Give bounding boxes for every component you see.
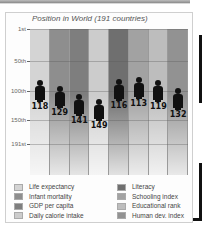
legend-swatch	[14, 184, 23, 191]
legend-swatch	[14, 193, 23, 200]
rank-value: 132	[166, 110, 190, 119]
legend-item: Life expectancy	[14, 182, 74, 191]
legend-item: Infant mortality	[14, 192, 72, 201]
legend-label: Human dev. index	[132, 212, 184, 219]
y-tick-label: 191st	[11, 141, 30, 147]
legend-swatch	[117, 193, 126, 200]
legend-item: Educational rank	[117, 201, 180, 210]
page-edge-frame-lower	[199, 163, 202, 221]
legend-swatch	[117, 212, 126, 219]
legend-swatch	[14, 203, 23, 210]
legend-item: Daily calorie intake	[14, 211, 84, 220]
rank-value: 149	[87, 121, 111, 130]
legend-label: GDP per capita	[29, 202, 73, 209]
gridline	[30, 91, 188, 92]
legend-item: GDP per capita	[14, 201, 73, 210]
legend-label: Literacy	[132, 183, 155, 190]
legend-swatch	[117, 203, 126, 210]
gridline	[30, 29, 188, 30]
page-edge-frame	[199, 35, 202, 103]
chart-title: Position in World (191 countries)	[32, 14, 148, 23]
legend-swatch	[14, 212, 23, 219]
legend-label: Infant mortality	[29, 193, 72, 200]
legend-item: Schooling index	[117, 192, 178, 201]
y-tick-label: 50th	[14, 58, 30, 64]
gridline	[30, 61, 188, 62]
legend-label: Life expectancy	[29, 183, 74, 190]
top-rule-shadow	[0, 3, 190, 4]
legend-item: Literacy	[117, 182, 155, 191]
legend-swatch	[117, 184, 126, 191]
plot-area: 118129141149116113119132	[30, 29, 188, 175]
legend-label: Educational rank	[132, 202, 180, 209]
legend-label: Daily calorie intake	[29, 212, 84, 219]
legend-item: Human dev. index	[117, 211, 184, 220]
y-tick-label: 1st	[18, 26, 30, 32]
legend-label: Schooling index	[132, 193, 178, 200]
y-tick-label: 100th	[11, 88, 30, 94]
gridline	[30, 144, 188, 145]
y-tick-label: 150th	[11, 117, 30, 123]
